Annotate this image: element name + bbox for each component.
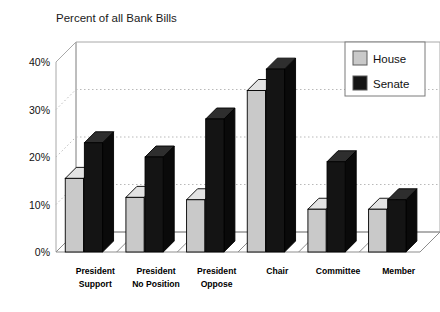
chart-canvas: Percent of all Bank Bills 0%10%20%30%40%… (0, 0, 440, 312)
x-label-5-line-0: Member (382, 266, 416, 276)
bar-front (247, 91, 265, 253)
bar-front (308, 209, 326, 252)
legend-label-senate: Senate (373, 78, 409, 90)
bar-front (65, 178, 83, 252)
bar-front (266, 69, 284, 252)
y-tick-30%: 30% (29, 104, 50, 116)
x-label-0-line-1: Support (79, 279, 112, 289)
x-label-1-line-1: No Position (132, 279, 180, 289)
bar-front (206, 119, 224, 252)
bar-front (388, 200, 406, 252)
bar-side (103, 132, 114, 252)
x-label-3-line-0: Chair (266, 266, 289, 276)
bar-senate-1 (145, 146, 174, 252)
y-tick-20%: 20% (29, 151, 50, 163)
bar-senate-3 (266, 58, 295, 252)
bar-side (163, 146, 174, 252)
x-label-4-line-0: Committee (316, 266, 361, 276)
y-tick-0%: 0% (35, 246, 50, 258)
bar-side (345, 151, 356, 252)
bar-front (84, 143, 102, 252)
bar-side (224, 108, 235, 252)
bar-senate-5 (388, 189, 417, 252)
bar-side (285, 58, 296, 252)
bar-front (145, 157, 163, 252)
bar-senate-2 (206, 108, 235, 252)
x-label-0-line-0: President (76, 266, 115, 276)
legend-senate-swatch (353, 76, 367, 90)
bar-senate-4 (327, 151, 356, 252)
y-tick-10%: 10% (29, 199, 50, 211)
legend-house-swatch (353, 51, 367, 65)
bar-senate-0 (84, 132, 113, 252)
chart-title: Percent of all Bank Bills (56, 12, 177, 24)
bar-front (369, 209, 387, 252)
x-label-1-line-0: President (136, 266, 175, 276)
x-label-2-line-0: President (197, 266, 236, 276)
chart-legend: HouseSenate (345, 42, 425, 96)
bar-chart: Percent of all Bank Bills 0%10%20%30%40%… (0, 0, 440, 312)
x-label-2-line-1: Oppose (201, 279, 233, 289)
legend-label-house: House (373, 53, 406, 65)
bar-front (126, 197, 144, 252)
y-tick-40%: 40% (29, 56, 50, 68)
bar-front (327, 162, 345, 252)
bar-front (187, 200, 205, 252)
